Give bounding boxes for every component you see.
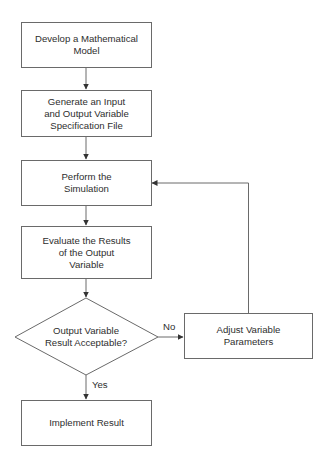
step-generate-spec: Generate an Input and Output Variable Sp…: [21, 90, 152, 137]
edge-label-yes: Yes: [92, 379, 108, 390]
step-develop-model-label: Develop a Mathematical Model: [35, 33, 138, 57]
step-evaluate-results: Evaluate the Results of the Output Varia…: [21, 226, 152, 279]
step-adjust-parameters: Adjust Variable Parameters: [184, 313, 313, 359]
step-implement-result-label: Implement Result: [49, 417, 124, 429]
decision-text-wrapper: Output Variable Result Acceptable?: [30, 320, 142, 354]
step-perform-simulation-label: Perform the Simulation: [61, 171, 111, 195]
decision-acceptable-label: Output Variable Result Acceptable?: [45, 325, 127, 349]
arrow-adjust-to-simulate: [152, 183, 249, 313]
step-evaluate-results-label: Evaluate the Results of the Output Varia…: [43, 235, 131, 271]
step-develop-model: Develop a Mathematical Model: [21, 22, 152, 68]
step-perform-simulation: Perform the Simulation: [21, 160, 152, 206]
edge-label-no: No: [163, 321, 175, 332]
step-generate-spec-label: Generate an Input and Output Variable Sp…: [44, 96, 129, 132]
flowchart-canvas: Develop a Mathematical Model Generate an…: [0, 0, 330, 466]
step-adjust-parameters-label: Adjust Variable Parameters: [217, 324, 281, 348]
step-implement-result: Implement Result: [21, 400, 152, 446]
